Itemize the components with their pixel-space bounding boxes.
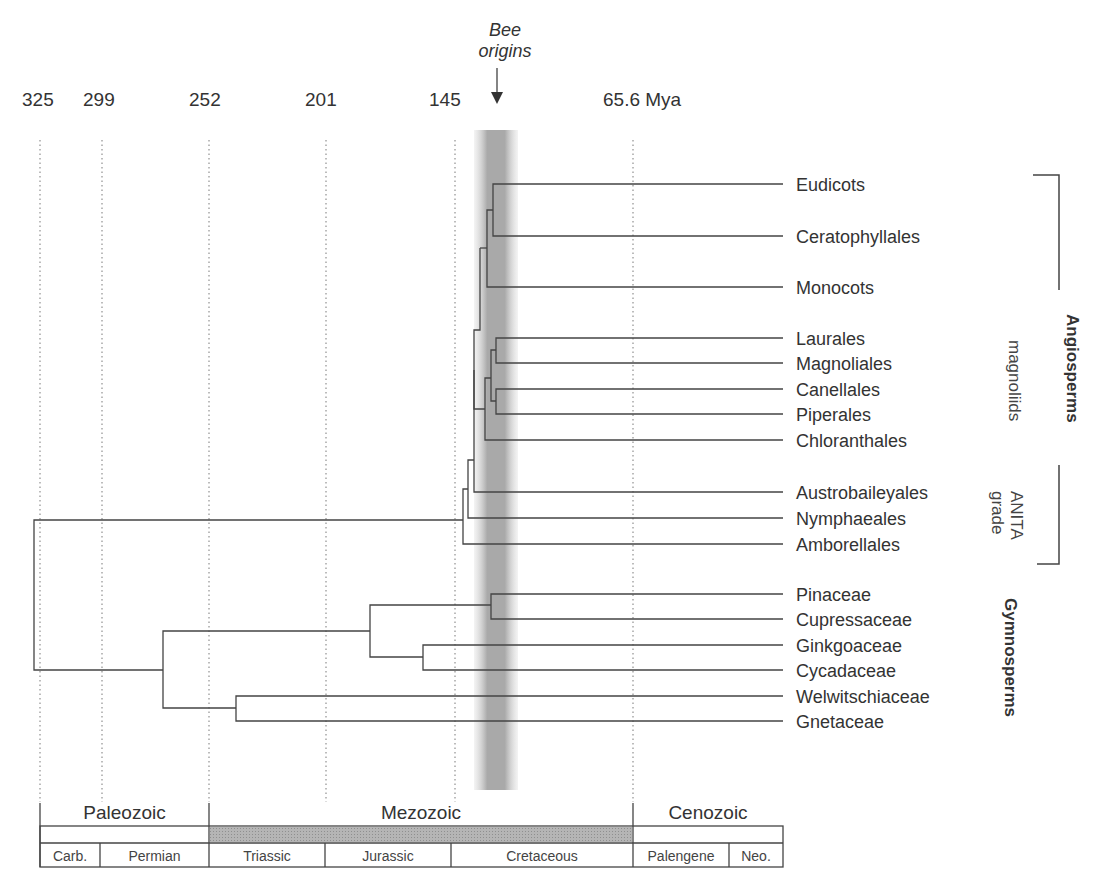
- taxon-label: Monocots: [796, 278, 874, 298]
- taxon-label: Canellales: [796, 380, 880, 400]
- tick-252: 252: [189, 89, 221, 111]
- taxon-label: Magnoliales: [796, 354, 892, 374]
- period-cretaceous: Cretaceous: [451, 845, 633, 867]
- angiosperms-label: Angiosperms: [1062, 314, 1082, 423]
- anita-grade-label: ANITA grade: [988, 491, 1026, 540]
- anita-line2: grade: [988, 491, 1007, 540]
- taxon-label: Ceratophyllales: [796, 227, 920, 247]
- tick-325: 325: [22, 89, 54, 111]
- taxon-label: Ginkgoaceae: [796, 636, 902, 656]
- bee-origins-label: Bee origins: [470, 20, 540, 62]
- taxon-label: Pinaceae: [796, 585, 871, 605]
- arrow-down-icon: [491, 92, 503, 104]
- taxon-label: Piperales: [796, 405, 871, 425]
- mesozoic-fill: [210, 827, 632, 842]
- taxon-label: Cycadaceae: [796, 661, 896, 681]
- taxon-label: Welwitschiaceae: [796, 687, 930, 707]
- tick-201: 201: [305, 89, 337, 111]
- taxon-label: Nymphaeales: [796, 509, 906, 529]
- era-paleozoic: Paleozoic: [40, 802, 209, 824]
- era-mesozoic: Mezozoic: [209, 802, 633, 824]
- anita-line1: ANITA: [1007, 491, 1026, 540]
- angiosperms-bracket-bottom: [1037, 465, 1059, 564]
- period-carboniferous: Carb.: [40, 845, 100, 867]
- era-cenozoic: Cenozoic: [633, 802, 783, 824]
- taxon-label: Cupressaceae: [796, 610, 912, 630]
- gymnosperms-label: Gymnosperms: [1000, 598, 1020, 717]
- taxon-label: Gnetaceae: [796, 712, 884, 732]
- period-paleogene: Palengene: [633, 845, 729, 867]
- angiosperms-bracket-top: [1033, 175, 1059, 290]
- bee-origins-band: [474, 130, 518, 790]
- taxon-label: Amborellales: [796, 535, 900, 555]
- period-triassic: Triassic: [209, 845, 325, 867]
- tick-145: 145: [429, 89, 461, 111]
- tick-65-6: 65.6 Mya: [603, 89, 681, 111]
- taxon-label: Laurales: [796, 329, 865, 349]
- tick-299: 299: [83, 89, 115, 111]
- phylogeny-lines: [0, 0, 1102, 886]
- period-permian: Permian: [100, 845, 209, 867]
- taxon-label: Chloranthales: [796, 431, 907, 451]
- bee-origins-line2: origins: [470, 41, 540, 62]
- bee-origins-line1: Bee: [470, 20, 540, 41]
- taxon-label: Eudicots: [796, 175, 865, 195]
- period-jurassic: Jurassic: [325, 845, 451, 867]
- taxon-label: Austrobaileyales: [796, 483, 928, 503]
- period-neogene: Neo.: [729, 845, 783, 867]
- magnoliids-label: magnoliids: [1004, 340, 1024, 421]
